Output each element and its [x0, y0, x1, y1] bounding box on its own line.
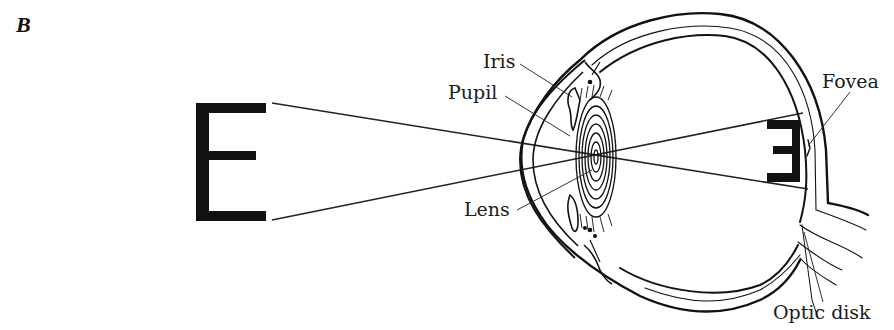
label-pupil: Pupil: [448, 83, 497, 102]
label-lens: Lens: [464, 200, 510, 219]
label-iris: Iris: [483, 52, 515, 71]
eyeball-outline: [521, 13, 868, 318]
iris-leader: [520, 64, 572, 97]
diagram-drawing: [0, 0, 894, 330]
label-optic-disk: Optic disk: [773, 303, 871, 322]
retinal-image-e: [767, 120, 800, 182]
optic-disk-leader: [804, 232, 823, 302]
lens-structure: [576, 85, 616, 232]
label-fovea: Fovea: [822, 72, 879, 91]
object-letter-e: [196, 103, 266, 221]
pupil-leader: [505, 96, 570, 136]
eye-diagram: B: [0, 0, 894, 330]
light-rays: [272, 103, 808, 220]
